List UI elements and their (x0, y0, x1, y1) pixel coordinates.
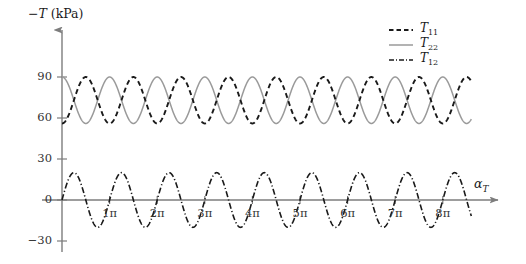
y-axis-title-unit: (kPa) (51, 6, 84, 21)
legend-label-t12: T12 (420, 51, 438, 67)
series-curve-t22 (62, 77, 471, 123)
x-axis-title: αT (474, 176, 488, 194)
x-tick-label: 8π (423, 206, 463, 220)
x-tick-label: 3π (185, 206, 225, 220)
y-tick-label: 0 (4, 192, 52, 206)
y-tick-label: 60 (4, 110, 52, 124)
x-tick-label: 4π (232, 206, 272, 220)
legend-item-t22: T22 (388, 37, 480, 52)
y-axis-title-symbol: T (38, 6, 46, 21)
data-series-group (62, 77, 471, 227)
x-tick-label: 1π (90, 206, 130, 220)
stress-oscillation-chart: −T (kPa) αT 9060300−30 1π2π3π4π5π6π7π8π … (0, 0, 526, 264)
legend-swatch-dashed (388, 25, 414, 35)
legend-item-t12: T12 (388, 52, 480, 67)
legend-label-t11: T11 (420, 21, 438, 37)
legend-swatch-dashdot (388, 55, 414, 65)
x-tick-label: 6π (328, 206, 368, 220)
y-tick-label: 30 (4, 151, 52, 165)
x-axis-title-sub: T (482, 184, 488, 194)
y-axis-title: −T (kPa) (28, 6, 83, 21)
x-tick-label: 5π (280, 206, 320, 220)
y-tick-label: 90 (4, 69, 52, 83)
chart-legend: T11 T22 T12 (388, 22, 480, 67)
legend-swatch-solid (388, 40, 414, 50)
legend-label-t22: T22 (420, 36, 438, 52)
x-tick-label: 2π (137, 206, 177, 220)
y-tick-label: −30 (4, 233, 52, 247)
series-curve-t11 (62, 77, 471, 123)
x-tick-label: 7π (375, 206, 415, 220)
y-axis-title-sign: − (28, 6, 38, 21)
legend-item-t11: T11 (388, 22, 480, 37)
